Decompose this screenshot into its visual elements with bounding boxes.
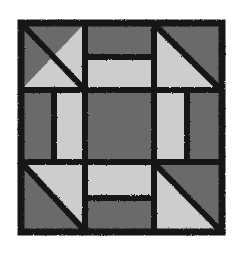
cell-bottom-right (154, 162, 222, 232)
cell-bottom-center (85, 162, 154, 232)
cell-middle-left (21, 90, 85, 162)
cell-top-right (154, 23, 222, 90)
figure-root (0, 0, 244, 256)
quilt-block-diagram (17, 19, 226, 236)
cell-center-solid (85, 90, 154, 162)
cell-middle-left-dark (21, 90, 53, 162)
cell-top-center-dark (85, 23, 154, 56)
cell-middle-right-dark (187, 90, 222, 162)
cell-top-center-light (85, 56, 154, 90)
quilt-svg (17, 19, 226, 236)
cell-center (85, 90, 154, 162)
cell-top-center (85, 23, 154, 90)
cell-middle-left-light (53, 90, 85, 162)
cell-bottom-center-light (85, 162, 154, 197)
cell-top-left (21, 23, 85, 90)
cell-middle-right-light (154, 90, 187, 162)
cell-bottom-center-dark (85, 197, 154, 232)
cell-middle-right (154, 90, 222, 162)
cell-bottom-left (21, 162, 85, 232)
